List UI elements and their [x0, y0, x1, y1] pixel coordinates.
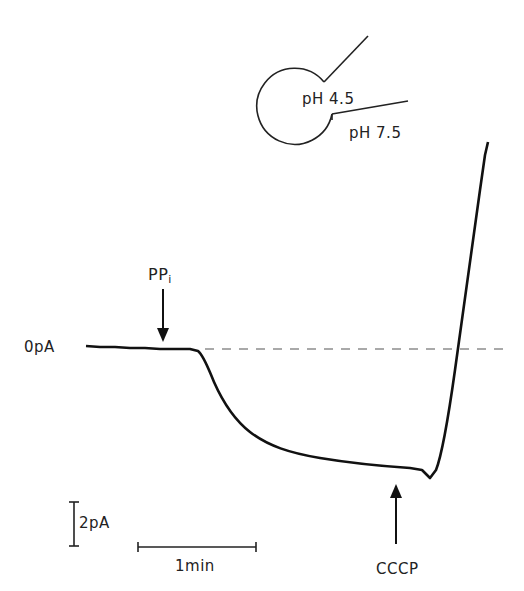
ppi-label-main: PP: [148, 265, 168, 284]
x-scale-bar: [138, 542, 256, 552]
inner-ph-label: pH 4.5: [302, 90, 354, 108]
y-scale-label: 2pA: [79, 514, 110, 532]
ppi-arrow-icon: [157, 289, 169, 342]
cccp-arrow-icon: [390, 484, 402, 544]
clipped-caption: [95, 583, 515, 591]
ppi-label: PPi: [148, 265, 172, 286]
cccp-label: CCCP: [376, 560, 418, 578]
ppi-label-sub: i: [168, 273, 172, 286]
zero-current-label: 0pA: [24, 338, 55, 356]
figure-canvas: [0, 0, 524, 591]
y-scale-bar: [69, 502, 79, 546]
outer-ph-label: pH 7.5: [349, 124, 401, 142]
x-scale-label: 1min: [175, 557, 215, 575]
current-trace: [86, 142, 488, 478]
